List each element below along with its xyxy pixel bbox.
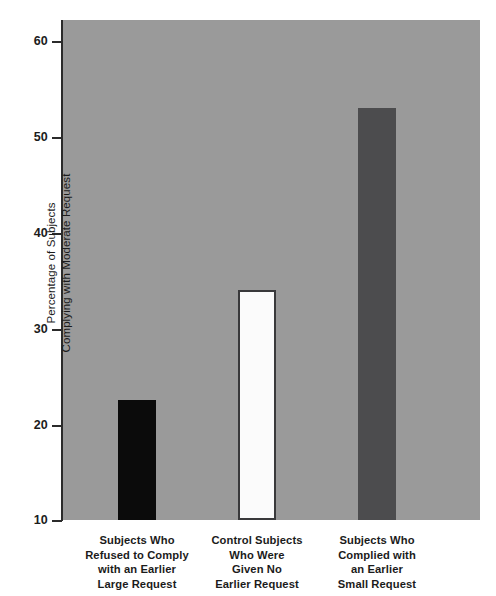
y-tick-label-40: 40: [14, 227, 48, 239]
y-tick-20: [52, 425, 62, 427]
x-label-3-line-2: Complied with: [312, 548, 442, 563]
y-axis-title-line-1: Percentage of Subjects: [44, 118, 59, 408]
x-label-2-line-1: Control Subjects: [193, 533, 321, 548]
x-label-3-line-4: Small Request: [312, 577, 442, 592]
bar-complied-small-request: [358, 108, 396, 520]
y-axis-title: Percentage of Subjects Complying with Mo…: [44, 118, 74, 408]
x-label-2-line-2: Who Were: [193, 548, 321, 563]
x-label-1-line-2: Refused to Comply: [62, 548, 212, 563]
x-label-3-line-3: an Earlier: [312, 562, 442, 577]
x-label-1-line-3: with an Earlier: [62, 562, 212, 577]
y-tick-label-50: 50: [14, 131, 48, 143]
y-tick-60: [52, 41, 62, 43]
y-tick-label-20: 20: [14, 419, 48, 431]
y-axis-title-line-2: Complying with Moderate Request: [59, 118, 74, 408]
y-tick-10: [52, 520, 62, 522]
bar-refused-large-request: [118, 400, 156, 520]
bar-chart-figure: 60 50 40 30 20 10 Percentage of Subjects…: [0, 0, 496, 596]
x-label-1-line-1: Subjects Who: [62, 533, 212, 548]
x-label-3-line-1: Subjects Who: [312, 533, 442, 548]
y-tick-label-30: 30: [14, 323, 48, 335]
x-label-complied-small-request: Subjects Who Complied with an Earlier Sm…: [312, 533, 442, 591]
x-label-refused-large-request: Subjects Who Refused to Comply with an E…: [62, 533, 212, 591]
x-label-control-no-earlier-request: Control Subjects Who Were Given No Earli…: [193, 533, 321, 591]
bar-control-no-earlier-request: [238, 290, 276, 520]
y-tick-label-60: 60: [14, 35, 48, 47]
x-label-1-line-4: Large Request: [62, 577, 212, 592]
y-tick-label-10: 10: [14, 514, 48, 526]
x-label-2-line-3: Given No: [193, 562, 321, 577]
x-label-2-line-4: Earlier Request: [193, 577, 321, 592]
